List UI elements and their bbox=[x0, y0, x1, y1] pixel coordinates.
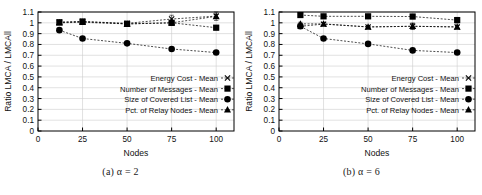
chart-svg-a: 00.10.20.30.40.50.60.70.80.911.102550751… bbox=[0, 0, 241, 165]
circle-marker bbox=[56, 27, 63, 34]
legend-label: Energy Cost - Mean bbox=[391, 74, 459, 83]
chart-panel-b: 00.10.20.30.40.50.60.70.80.911.102550751… bbox=[241, 0, 482, 195]
y-tick-label: 0.5 bbox=[23, 73, 35, 82]
y-axis: 00.10.20.30.40.50.60.70.80.911.1 bbox=[23, 8, 42, 136]
data-series bbox=[56, 27, 219, 56]
y-axis: 00.10.20.30.40.50.60.70.80.911.1 bbox=[264, 8, 283, 136]
legend: Energy Cost - MeanNumber of Messages - M… bbox=[120, 74, 235, 115]
x-tick-label: 0 bbox=[277, 135, 282, 144]
x-tick-label: 100 bbox=[209, 135, 223, 144]
legend-label: Number of Messages - Mean bbox=[361, 85, 459, 94]
x-tick-label: 0 bbox=[36, 135, 41, 144]
y-axis-title: Ratio LMCA / LMCAll bbox=[244, 31, 254, 112]
legend-label: Energy Cost - Mean bbox=[150, 74, 218, 83]
y-axis-title: Ratio LMCA / LMCAll bbox=[3, 31, 13, 112]
square-marker bbox=[465, 86, 471, 92]
triangle-marker bbox=[297, 20, 304, 27]
legend-label: Size of Covered List - Mean bbox=[365, 95, 459, 104]
triangle-marker bbox=[320, 20, 327, 27]
x-axis-title: Nodes bbox=[124, 148, 149, 158]
square-marker bbox=[365, 13, 371, 19]
y-tick-label: 0.2 bbox=[264, 105, 276, 114]
y-tick-label: 0.5 bbox=[264, 73, 276, 82]
panel-caption-a: (a) α = 2 bbox=[0, 166, 241, 177]
square-marker bbox=[297, 12, 303, 18]
x-axis-title: Nodes bbox=[365, 148, 390, 158]
circle-marker bbox=[409, 47, 416, 54]
plot-area-b: 00.10.20.30.40.50.60.70.80.911.102550751… bbox=[241, 0, 482, 165]
y-tick-label: 0.9 bbox=[23, 30, 35, 39]
y-tick-label: 1 bbox=[29, 19, 34, 28]
circle-marker bbox=[213, 49, 220, 56]
y-tick-label: 0.8 bbox=[264, 40, 276, 49]
legend-label: Size of Covered List - Mean bbox=[124, 95, 218, 104]
y-tick-label: 0.3 bbox=[264, 95, 276, 104]
legend: Energy Cost - MeanNumber of Messages - M… bbox=[361, 74, 476, 115]
y-tick-label: 0 bbox=[270, 127, 275, 136]
x-tick-label: 25 bbox=[78, 135, 88, 144]
x-axis: 0255075100 bbox=[36, 128, 224, 145]
chart-panel-a: 00.10.20.30.40.50.60.70.80.911.102550751… bbox=[0, 0, 241, 195]
x-tick-label: 75 bbox=[408, 135, 418, 144]
circle-marker bbox=[79, 35, 86, 42]
y-tick-label: 0.3 bbox=[23, 95, 35, 104]
legend-label: Pct. of Relay Nodes - Mean bbox=[125, 106, 218, 115]
y-tick-label: 0.7 bbox=[264, 51, 276, 60]
figure-container: 00.10.20.30.40.50.60.70.80.911.102550751… bbox=[0, 0, 482, 195]
y-tick-label: 0.8 bbox=[23, 40, 35, 49]
circle-marker bbox=[224, 96, 231, 103]
circle-marker bbox=[124, 40, 131, 47]
y-tick-label: 1 bbox=[270, 19, 275, 28]
circle-marker bbox=[465, 96, 472, 103]
circle-marker bbox=[454, 49, 461, 56]
x-tick-label: 50 bbox=[364, 135, 374, 144]
legend-label: Number of Messages - Mean bbox=[120, 85, 218, 94]
x-tick-label: 25 bbox=[319, 135, 329, 144]
y-tick-label: 0.6 bbox=[264, 62, 276, 71]
data-series bbox=[297, 23, 460, 56]
x-tick-label: 75 bbox=[167, 135, 177, 144]
circle-marker bbox=[168, 46, 175, 53]
plot-area-a: 00.10.20.30.40.50.60.70.80.911.102550751… bbox=[0, 0, 241, 165]
y-tick-label: 0.4 bbox=[23, 84, 35, 93]
square-marker bbox=[320, 13, 326, 19]
y-tick-label: 0.2 bbox=[23, 105, 35, 114]
x-tick-label: 50 bbox=[123, 135, 133, 144]
y-tick-label: 0.1 bbox=[264, 116, 276, 125]
y-tick-label: 0 bbox=[29, 127, 34, 136]
legend-label: Pct. of Relay Nodes - Mean bbox=[366, 106, 459, 115]
square-marker bbox=[410, 13, 416, 19]
square-marker bbox=[454, 17, 460, 23]
square-marker bbox=[224, 86, 230, 92]
panel-caption-a-text: (a) α = 2 bbox=[102, 166, 138, 177]
y-tick-label: 0.9 bbox=[264, 30, 276, 39]
circle-marker bbox=[365, 41, 372, 48]
y-tick-label: 0.7 bbox=[23, 51, 35, 60]
square-marker bbox=[213, 25, 219, 31]
circle-marker bbox=[320, 35, 327, 42]
panel-caption-b: (b) α = 6 bbox=[241, 166, 482, 177]
y-tick-label: 1.1 bbox=[264, 8, 276, 17]
y-tick-label: 1.1 bbox=[23, 8, 35, 17]
panel-caption-b-text: (b) α = 6 bbox=[343, 166, 380, 177]
data-series bbox=[297, 12, 460, 23]
y-tick-label: 0.4 bbox=[264, 84, 276, 93]
chart-svg-b: 00.10.20.30.40.50.60.70.80.911.102550751… bbox=[241, 0, 482, 165]
x-tick-label: 100 bbox=[450, 135, 464, 144]
x-axis: 0255075100 bbox=[277, 128, 465, 145]
y-tick-label: 0.6 bbox=[23, 62, 35, 71]
y-tick-label: 0.1 bbox=[23, 116, 35, 125]
